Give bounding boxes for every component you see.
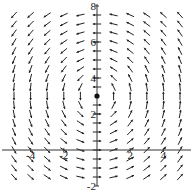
direction-field-plot: -4-224 -22468	[0, 0, 193, 190]
equilibrium-point	[94, 93, 99, 98]
y-tick-label: -2	[87, 180, 96, 190]
